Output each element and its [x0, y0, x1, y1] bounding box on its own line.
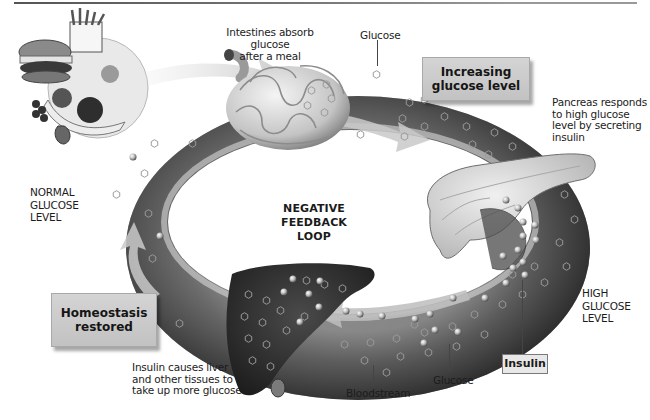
- intestines-label-line-1: Intestines absorb glucose: [208, 26, 332, 50]
- high-glucose-level-label: HIGH GLUCOSE LEVEL: [582, 287, 631, 325]
- pancreas-label-line-4: insulin: [552, 132, 650, 144]
- increasing-glucose-box: Increasing glucose level: [422, 57, 530, 101]
- pancreas-label-line-3: level by secreting: [552, 120, 650, 132]
- insulin-leader: [522, 280, 523, 354]
- insulin-box: Insulin: [502, 354, 548, 374]
- glucose-top-leader: [377, 40, 378, 66]
- glucose-bottom-label: Glucose: [433, 374, 473, 386]
- homeostasis-box-line-1: Homeostasis: [61, 306, 148, 320]
- intestines-label-line-2: after a meal: [208, 50, 332, 62]
- title-line-2: LOOP: [252, 230, 376, 244]
- high-label-line-2: GLUCOSE: [582, 300, 631, 313]
- high-label-line-1: HIGH: [582, 287, 631, 300]
- liver-label: Insulin causes liver and other tissues t…: [132, 362, 244, 397]
- increasing-box-line-2: glucose level: [432, 79, 520, 93]
- homeostasis-restored-box: Homeostasis restored: [51, 293, 157, 347]
- glucose-bottom-leader: [449, 344, 450, 372]
- liver-label-line-3: take up more glucose: [132, 385, 244, 397]
- increasing-box-line-1: Increasing: [432, 65, 520, 79]
- homeostasis-box-line-2: restored: [61, 320, 148, 334]
- title-line-1: NEGATIVE FEEDBACK: [252, 202, 376, 230]
- negative-feedback-loop-title: NEGATIVE FEEDBACK LOOP: [252, 202, 376, 244]
- high-label-line-3: LEVEL: [582, 312, 631, 325]
- bloodstream-leader: [373, 365, 374, 387]
- normal-label-line-1: NORMAL: [30, 186, 79, 199]
- glucose-top-label: Glucose: [360, 29, 400, 41]
- normal-label-line-3: LEVEL: [30, 211, 79, 224]
- normal-glucose-level-label: NORMAL GLUCOSE LEVEL: [30, 186, 79, 224]
- intestines-icon: [224, 49, 350, 150]
- normal-label-line-2: GLUCOSE: [30, 199, 79, 212]
- bloodstream-label: Bloodstream: [346, 387, 410, 399]
- pancreas-label: Pancreas responds to high glucose level …: [552, 97, 650, 143]
- pancreas-label-line-1: Pancreas responds: [552, 97, 650, 109]
- intestines-label: Intestines absorb glucose after a meal: [208, 26, 332, 62]
- liver-label-line-1: Insulin causes liver: [132, 362, 244, 374]
